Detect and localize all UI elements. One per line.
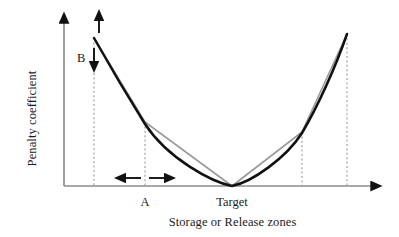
annotation-label-target: Target xyxy=(202,196,262,209)
x-axis-label: Storage or Release zones xyxy=(135,216,330,229)
series-piecewise-linear-grey xyxy=(94,34,347,186)
chart-axes xyxy=(64,22,372,186)
y-axis-label: Penalty coefficient xyxy=(26,0,40,237)
annotation-label-b: B xyxy=(77,52,85,65)
dashed-zone-boundaries xyxy=(94,34,347,186)
chart-canvas xyxy=(0,0,399,237)
series-smoothed-black xyxy=(94,34,347,186)
annotation-label-a: A xyxy=(134,196,156,209)
penalty-coefficient-figure: Penalty coefficient Storage or Release z… xyxy=(0,0,399,237)
